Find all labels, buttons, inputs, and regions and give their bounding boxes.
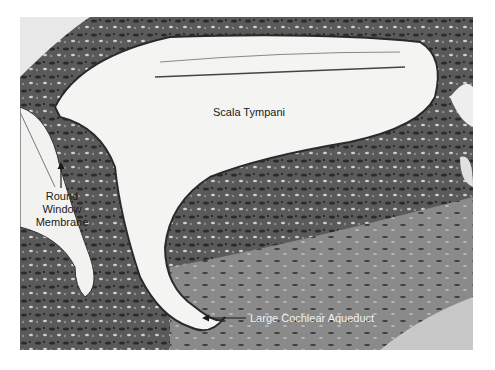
label-line: Window xyxy=(22,203,102,216)
label-round-window-membrane: Round Window Membrane xyxy=(22,190,102,229)
label-line: Membrane xyxy=(22,216,102,229)
label-line: Round xyxy=(22,190,102,203)
label-scala-tympani: Scala Tympani xyxy=(213,106,285,119)
arrow-up-icon xyxy=(56,162,66,188)
micrograph xyxy=(20,17,473,350)
arrow-left-icon xyxy=(202,313,246,323)
label-large-cochlear-aqueduct: Large Cochlear Aqueduct xyxy=(250,312,374,325)
tissue-illustration xyxy=(20,17,473,350)
